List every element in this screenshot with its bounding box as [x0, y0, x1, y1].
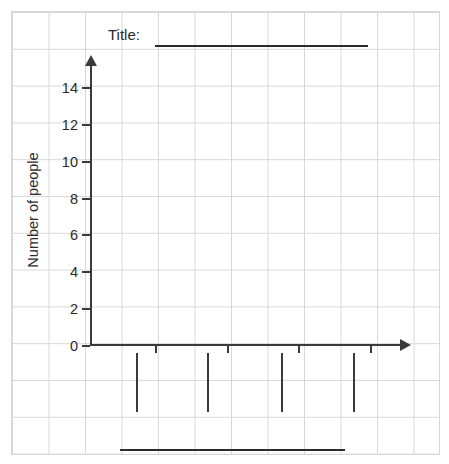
- x-tick-4: [370, 345, 372, 353]
- y-tick-14: [82, 87, 90, 89]
- title-blank-answer-line[interactable]: [155, 45, 368, 47]
- title-label: Title:: [108, 26, 140, 43]
- y-tick-12: [82, 124, 90, 126]
- y-tick-2: [82, 308, 90, 310]
- y-tick-label-6: 6: [38, 228, 78, 243]
- y-tick-label-8: 8: [38, 192, 78, 207]
- x-tick-3: [298, 345, 300, 353]
- x-axis-line: [90, 344, 403, 346]
- y-axis-arrow-icon: [85, 55, 97, 66]
- category-mark-3: [281, 353, 283, 412]
- y-tick-label-2: 2: [38, 302, 78, 317]
- y-tick-label-0: 0: [38, 339, 78, 354]
- worksheet-page: Title: 0 2 4 6 8 10 12 14 Number of peop…: [0, 0, 449, 464]
- y-tick-label-12: 12: [38, 118, 78, 133]
- category-mark-2: [207, 353, 209, 412]
- y-tick-label-14: 14: [38, 81, 78, 96]
- y-axis-title: Number of people: [25, 115, 41, 305]
- y-tick-0: [82, 345, 90, 347]
- y-tick-label-4: 4: [38, 265, 78, 280]
- y-axis-line: [90, 64, 92, 346]
- y-tick-8: [82, 198, 90, 200]
- y-tick-4: [82, 271, 90, 273]
- y-tick-10: [82, 161, 90, 163]
- x-tick-2: [227, 345, 229, 353]
- x-axis-arrow-icon: [400, 339, 411, 351]
- category-mark-1: [136, 353, 138, 412]
- x-axis-label-blank-answer-line[interactable]: [120, 449, 345, 451]
- y-tick-label-10: 10: [38, 155, 78, 170]
- x-tick-1: [155, 345, 157, 353]
- category-mark-4: [353, 353, 355, 412]
- y-tick-6: [82, 234, 90, 236]
